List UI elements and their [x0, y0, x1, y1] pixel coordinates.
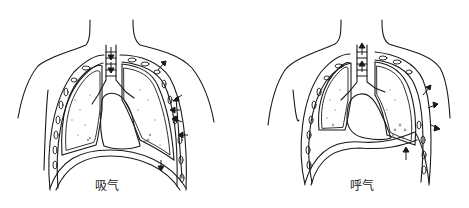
- exhale-panel: 呼气: [235, 0, 469, 208]
- inhale-panel: 吸气: [0, 0, 234, 208]
- inhale-label: 吸气: [95, 176, 119, 193]
- exhale-label: 呼气: [350, 176, 374, 193]
